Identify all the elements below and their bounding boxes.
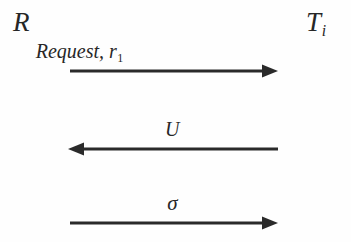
message-row-sigma: σ (0, 190, 351, 236)
actor-label-requester: R (13, 9, 30, 38)
message-row-u: U (0, 116, 351, 162)
message-arrow-u (0, 138, 351, 162)
actor-label-target-text: T (306, 7, 321, 37)
message-label-request-text: Request, r (36, 40, 117, 62)
actor-label-target-subscript: i (322, 22, 327, 39)
message-row-request: Request, r1 (0, 38, 351, 84)
actor-label-target: Ti (306, 9, 326, 38)
message-sequence-diagram: R Ti Request, r1 U σ (0, 0, 351, 242)
actor-label-requester-text: R (13, 7, 30, 37)
message-arrow-sigma (0, 212, 351, 236)
message-arrow-u-head-left (68, 143, 84, 156)
message-arrow-request (0, 60, 351, 84)
message-label-u-text: U (165, 118, 179, 140)
message-arrow-sigma-head-right (262, 217, 278, 230)
message-arrow-request-head-right (262, 65, 278, 78)
